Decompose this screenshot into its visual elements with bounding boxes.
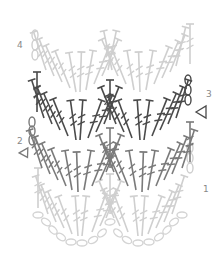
- row-label-4: 4: [17, 40, 23, 50]
- row-4-stitches: [30, 24, 194, 93]
- row-2-start-marker: [19, 148, 32, 160]
- row-label-2: 2: [17, 136, 23, 146]
- row-label-1: 1: [203, 184, 209, 194]
- row-2-stitches: [26, 117, 198, 192]
- crochet-chart: [0, 0, 222, 261]
- row-label-3: 3: [206, 89, 212, 99]
- foundation-chain: [33, 212, 187, 246]
- row-3-start-marker: [196, 106, 206, 118]
